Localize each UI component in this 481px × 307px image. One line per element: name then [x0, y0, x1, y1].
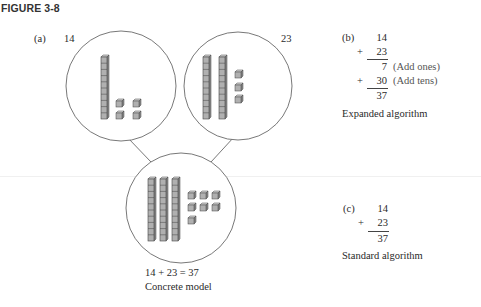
connector-right [211, 137, 234, 162]
b-plus-1: + [357, 46, 363, 58]
c-sum: 37 [366, 233, 388, 245]
b-partial-ones: 7 [365, 61, 387, 73]
c-rule [368, 231, 389, 232]
concrete-equation: 14 + 23 = 37 [145, 267, 199, 279]
part-b-label: (b) [342, 32, 354, 44]
b-partial-tens: 30 [365, 75, 387, 87]
b-rule-1 [367, 59, 388, 60]
b-addend-1: 14 [365, 32, 387, 44]
b-plus-2: + [357, 75, 363, 87]
concrete-model-caption: Concrete model [145, 281, 212, 293]
expanded-algorithm-caption: Expanded algorithm [342, 108, 427, 120]
c-addend-1: 14 [366, 203, 388, 215]
c-plus: + [358, 217, 364, 229]
circle-model-37 [126, 153, 236, 263]
b-add-tens-note: (Add tens) [393, 75, 438, 87]
standard-algorithm-caption: Standard algorithm [342, 250, 423, 262]
c-addend-2: 23 [366, 217, 388, 229]
b-addend-2: 23 [365, 46, 387, 58]
part-c-label: (c) [343, 203, 355, 215]
b-sum: 37 [365, 90, 387, 102]
circle-model-23 [184, 32, 292, 140]
connector-left [128, 138, 151, 162]
circle-model-14 [66, 31, 176, 141]
b-add-ones-note: (Add ones) [393, 61, 440, 73]
b-rule-2 [367, 88, 388, 89]
